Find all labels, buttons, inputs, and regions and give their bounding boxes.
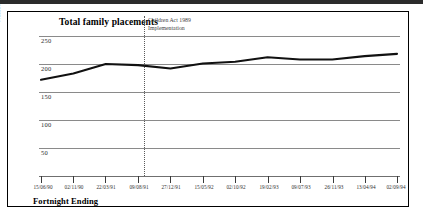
x-axis-title: Fortnight Ending <box>33 196 98 206</box>
x-tick-1 <box>73 176 74 183</box>
x-tick-label-1: 02/11/90 <box>64 184 83 190</box>
x-tick-label-10: 13/04/94 <box>356 184 375 190</box>
x-tick-label-0: 15/06/90 <box>33 184 52 190</box>
x-tick-label-8: 09/07/93 <box>291 184 310 190</box>
x-tick-label-7: 19/02/93 <box>259 184 278 190</box>
x-tick-0 <box>41 176 42 183</box>
x-tick-label-2: 22/03/91 <box>96 184 115 190</box>
x-tick-2 <box>105 176 106 183</box>
x-tick-10 <box>365 176 366 183</box>
x-tick-11 <box>397 176 398 183</box>
figure-page: Total family placements Number of Childr… <box>0 0 423 219</box>
x-tick-label-5: 15/05/92 <box>194 184 213 190</box>
x-tick-label-9: 26/11/93 <box>324 184 343 190</box>
x-tick-5 <box>203 176 204 183</box>
x-tick-label-3: 09/08/91 <box>129 184 148 190</box>
x-tick-label-4: 27/12/91 <box>161 184 180 190</box>
x-tick-label-11: 02/09/94 <box>386 184 405 190</box>
x-tick-3 <box>138 176 139 183</box>
x-tick-4 <box>170 176 171 183</box>
x-tick-label-6: 02/10/92 <box>226 184 245 190</box>
x-tick-9 <box>333 176 334 183</box>
x-tick-7 <box>268 176 269 183</box>
x-tick-6 <box>235 176 236 183</box>
x-tick-8 <box>300 176 301 183</box>
